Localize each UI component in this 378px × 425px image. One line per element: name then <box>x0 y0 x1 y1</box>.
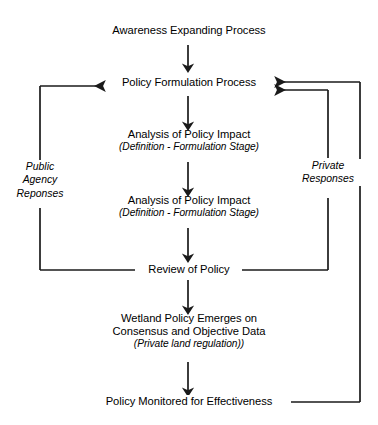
node-analysis1-sublabel: (Definition - Formulation Stage) <box>0 141 378 153</box>
edge-label-public-line3: Reponses <box>0 187 80 200</box>
node-policy-monitored-for-effectiveness: Policy Monitored for Effectiveness <box>0 395 378 408</box>
edge-label-public-line2: Agency <box>0 173 80 186</box>
node-wetland-policy-emerges: Wetland Policy Emerges on Consensus and … <box>0 312 378 350</box>
node-wetland-sublabel: (Private land regulation)) <box>0 338 378 350</box>
edge-label-private-line2: Responses <box>288 172 368 185</box>
node-analysis2-sublabel: (Definition - Formulation Stage) <box>0 207 378 219</box>
edge-label-private-line1: Private <box>288 159 368 172</box>
flowchart-diagram: Awareness Expanding Process Policy Formu… <box>0 0 378 425</box>
node-wetland-label-line1: Wetland Policy Emerges on <box>0 312 378 325</box>
edge-label-private-responses: Private Responses <box>288 159 368 186</box>
node-analysis-of-policy-impact-1: Analysis of Policy Impact (Definition - … <box>0 128 378 153</box>
node-awareness-label: Awareness Expanding Process <box>112 24 265 36</box>
node-monitored-label: Policy Monitored for Effectiveness <box>101 395 278 407</box>
node-review-of-policy: Review of Policy <box>0 263 378 276</box>
node-wetland-label-line2: Consensus and Objective Data <box>0 325 378 338</box>
node-policy-formulation-label: Policy Formulation Process <box>122 76 256 88</box>
node-analysis1-label: Analysis of Policy Impact <box>0 128 378 141</box>
edge-label-public-agency-reponses: Public Agency Reponses <box>0 160 80 200</box>
node-awareness-expanding-process: Awareness Expanding Process <box>0 24 378 37</box>
edge-label-public-line1: Public <box>0 160 80 173</box>
node-review-label: Review of Policy <box>142 263 235 275</box>
node-policy-formulation-process: Policy Formulation Process <box>0 76 378 89</box>
